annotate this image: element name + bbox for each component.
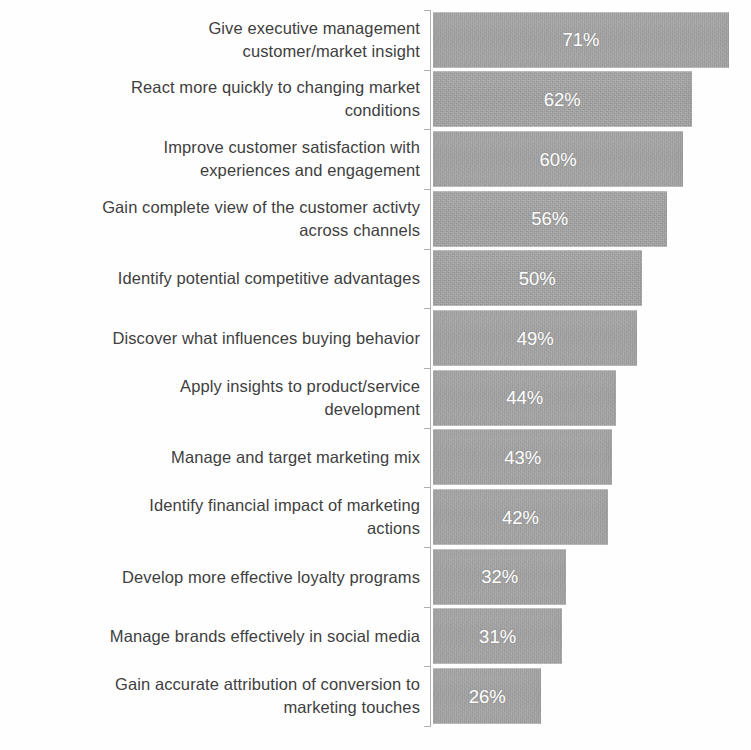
bar[interactable]: 32% xyxy=(433,549,566,604)
bar[interactable]: 26% xyxy=(433,669,541,724)
category-label: React more quickly to changing marketcon… xyxy=(6,76,420,122)
bar-container[interactable]: 44% xyxy=(433,370,616,425)
category-label: Give executive managementcustomer/market… xyxy=(6,17,420,63)
bar[interactable]: 50% xyxy=(433,251,642,306)
bar-row[interactable]: Improve customer satisfaction withexperi… xyxy=(0,129,751,189)
bar[interactable]: 31% xyxy=(433,609,562,664)
category-label-line: React more quickly to changing market xyxy=(6,76,420,99)
bar-row[interactable]: Develop more effective loyalty programs3… xyxy=(0,547,751,607)
category-label: Manage and target marketing mix xyxy=(6,446,420,469)
bar-value-label: 49% xyxy=(433,328,637,348)
bar-value-label: 56% xyxy=(433,209,667,229)
bar-value-label: 32% xyxy=(433,567,566,587)
plot-area: Give executive managementcustomer/market… xyxy=(0,10,751,726)
bar-row[interactable]: Identify potential competitive advantage… xyxy=(0,249,751,309)
category-label: Develop more effective loyalty programs xyxy=(6,565,420,588)
category-label: Identify potential competitive advantage… xyxy=(6,267,420,290)
bar-row[interactable]: React more quickly to changing marketcon… xyxy=(0,70,751,130)
category-label-line: across channels xyxy=(6,219,420,242)
bar-value-label: 31% xyxy=(433,626,562,646)
bar-chart: Give executive managementcustomer/market… xyxy=(0,0,751,750)
bar-container[interactable]: 32% xyxy=(433,549,566,604)
category-label-line: marketing touches xyxy=(6,696,420,719)
bar[interactable]: 49% xyxy=(433,311,637,366)
bar-row[interactable]: Gain accurate attribution of conversion … xyxy=(0,666,751,726)
category-label-line: experiences and engagement xyxy=(6,159,420,182)
axis-tick xyxy=(424,726,431,727)
category-label: Discover what influences buying behavior xyxy=(6,327,420,350)
bar-container[interactable]: 71% xyxy=(433,12,729,67)
bar-container[interactable]: 43% xyxy=(433,430,612,485)
bar[interactable]: 44% xyxy=(433,370,616,425)
bar-row[interactable]: Give executive managementcustomer/market… xyxy=(0,10,751,70)
bar-value-label: 44% xyxy=(433,388,616,408)
bar-container[interactable]: 31% xyxy=(433,609,562,664)
category-label: Identify financial impact of marketingac… xyxy=(6,494,420,540)
bar-row[interactable]: Gain complete view of the customer activ… xyxy=(0,189,751,249)
bar-container[interactable]: 26% xyxy=(433,669,541,724)
bar[interactable]: 60% xyxy=(433,132,683,187)
bar-row[interactable]: Manage and target marketing mix43% xyxy=(0,428,751,488)
bar-value-label: 71% xyxy=(433,30,729,50)
category-label-line: Identify potential competitive advantage… xyxy=(6,267,420,290)
category-label-line: actions xyxy=(6,517,420,540)
bar-container[interactable]: 56% xyxy=(433,191,667,246)
category-label-line: Improve customer satisfaction with xyxy=(6,136,420,159)
category-label-line: development xyxy=(6,398,420,421)
bar-container[interactable]: 60% xyxy=(433,132,683,187)
category-label: Gain accurate attribution of conversion … xyxy=(6,673,420,719)
category-label-line: Gain complete view of the customer activ… xyxy=(6,196,420,219)
category-label-line: conditions xyxy=(6,99,420,122)
bar-value-label: 62% xyxy=(433,89,692,109)
bar-row[interactable]: Identify financial impact of marketingac… xyxy=(0,487,751,547)
bar-container[interactable]: 49% xyxy=(433,311,637,366)
category-label: Apply insights to product/servicedevelop… xyxy=(6,375,420,421)
bar[interactable]: 56% xyxy=(433,191,667,246)
category-label-line: Give executive management xyxy=(6,17,420,40)
bar[interactable]: 62% xyxy=(433,72,692,127)
bar[interactable]: 71% xyxy=(433,12,729,67)
bar-container[interactable]: 42% xyxy=(433,490,608,545)
bar-value-label: 60% xyxy=(433,149,683,169)
category-label-line: customer/market insight xyxy=(6,40,420,63)
bar-value-label: 26% xyxy=(433,686,541,706)
bar-value-label: 42% xyxy=(433,507,608,527)
category-label: Manage brands effectively in social medi… xyxy=(6,625,420,648)
category-label-line: Develop more effective loyalty programs xyxy=(6,565,420,588)
category-label-line: Identify financial impact of marketing xyxy=(6,494,420,517)
category-label-line: Gain accurate attribution of conversion … xyxy=(6,673,420,696)
category-label-line: Manage and target marketing mix xyxy=(6,446,420,469)
category-label: Gain complete view of the customer activ… xyxy=(6,196,420,242)
category-label-line: Apply insights to product/service xyxy=(6,375,420,398)
category-label-line: Discover what influences buying behavior xyxy=(6,327,420,350)
bar-value-label: 43% xyxy=(433,447,612,467)
category-label: Improve customer satisfaction withexperi… xyxy=(6,136,420,182)
bar[interactable]: 43% xyxy=(433,430,612,485)
bar-container[interactable]: 62% xyxy=(433,72,692,127)
bar-container[interactable]: 50% xyxy=(433,251,642,306)
bar-row[interactable]: Manage brands effectively in social medi… xyxy=(0,607,751,667)
category-label-line: Manage brands effectively in social medi… xyxy=(6,625,420,648)
bar[interactable]: 42% xyxy=(433,490,608,545)
bar-value-label: 50% xyxy=(433,268,642,288)
bar-row[interactable]: Discover what influences buying behavior… xyxy=(0,308,751,368)
bar-row[interactable]: Apply insights to product/servicedevelop… xyxy=(0,368,751,428)
